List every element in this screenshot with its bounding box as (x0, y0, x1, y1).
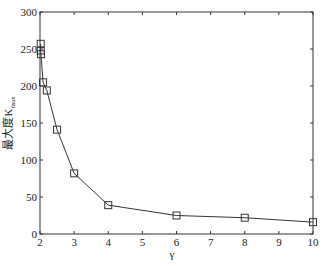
axis-ticks: 2345678910050100150200250300 (21, 6, 320, 248)
data-series (37, 40, 316, 225)
x-tick-label: 2 (37, 236, 43, 248)
axes-box (40, 12, 313, 234)
y-tick-label: 50 (26, 191, 38, 203)
y-tick-label: 200 (21, 80, 38, 92)
x-tick-label: 6 (174, 236, 180, 248)
y-tick-label: 250 (21, 43, 38, 55)
x-axis-label: γ (169, 248, 175, 260)
x-tick-label: 4 (106, 236, 112, 248)
line-chart: 2345678910050100150200250300 γ 最大度Kmax (0, 0, 324, 266)
y-tick-label: 0 (32, 228, 38, 240)
x-tick-label: 3 (71, 236, 77, 248)
plot-frame (40, 12, 313, 234)
x-tick-label: 10 (308, 236, 320, 248)
x-tick-label: 5 (140, 236, 146, 248)
y-axis-label: 最大度Kmax (1, 96, 17, 150)
x-tick-label: 8 (242, 236, 248, 248)
x-tick-label: 9 (276, 236, 282, 248)
series-line (41, 44, 313, 222)
y-tick-label: 100 (21, 154, 38, 166)
y-tick-label: 150 (21, 117, 38, 129)
x-tick-label: 7 (208, 236, 214, 248)
y-tick-label: 300 (21, 6, 38, 18)
